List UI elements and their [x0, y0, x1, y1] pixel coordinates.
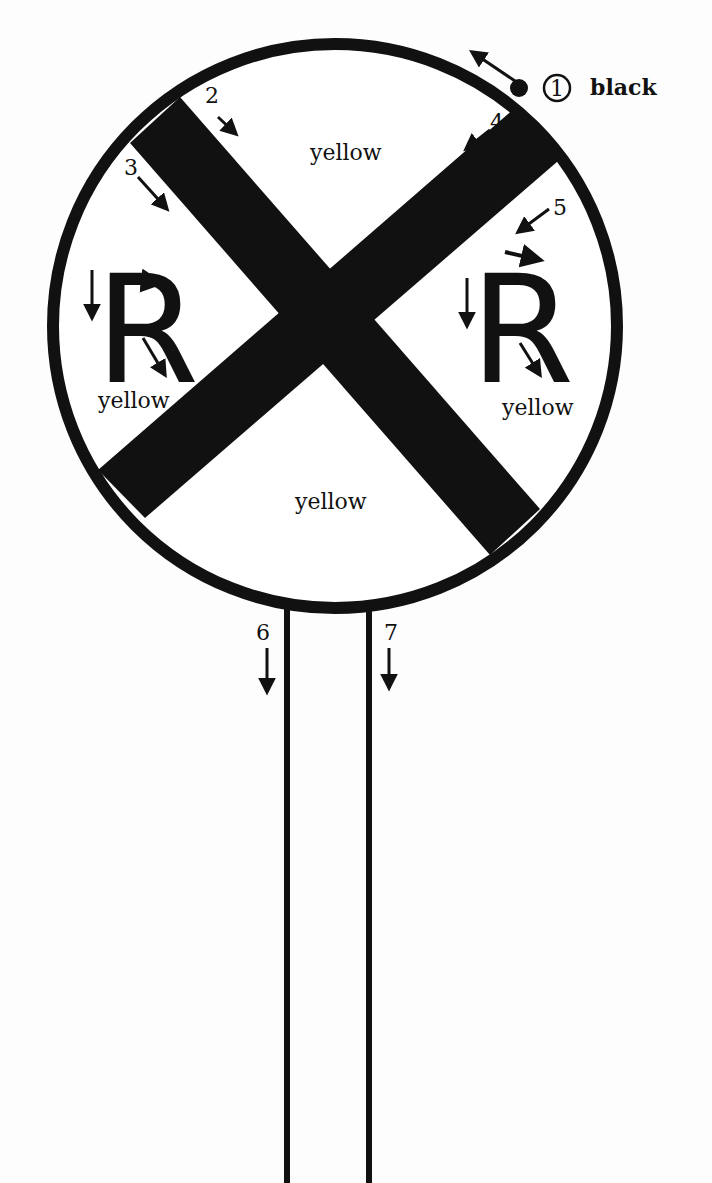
step-number: 2 [205, 83, 219, 108]
step-7: 7 [384, 620, 398, 688]
step-number: 4 [490, 110, 504, 135]
step-number: 3 [124, 155, 138, 180]
letter-r-right: R [470, 243, 574, 417]
region-label-bottom: yellow [294, 489, 367, 514]
sign-posts [287, 606, 369, 1183]
step-1-number: 1 [550, 76, 564, 101]
region-label-right: yellow [501, 395, 574, 420]
step-1-color: black [590, 74, 657, 100]
region-label-top: yellow [309, 140, 382, 165]
start-dot-icon [510, 79, 528, 97]
railroad-crossing-sign-diagram: R R yellow yellow yellow yellow 1 black … [0, 0, 712, 1183]
region-label-left: yellow [97, 388, 170, 413]
letter-r-right-group: R [467, 243, 574, 417]
step-number: 5 [553, 195, 567, 220]
step-number: 6 [256, 620, 270, 645]
step-number: 7 [384, 620, 398, 645]
step-6: 6 [256, 620, 270, 692]
